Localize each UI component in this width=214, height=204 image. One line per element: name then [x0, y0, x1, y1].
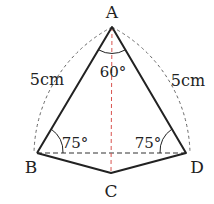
side-label-ab: 5cm: [30, 70, 64, 89]
side-label-ad: 5cm: [171, 71, 205, 90]
diagram-canvas: A B C D 5cm 5cm 60° 75° 75°: [0, 0, 214, 204]
angle-label-d: 75°: [135, 134, 162, 152]
vertex-label-b: B: [25, 157, 38, 177]
angle-label-a: 60°: [100, 63, 127, 81]
axis-ac-dashed: [111, 27, 112, 173]
angle-arc-d: [160, 129, 172, 153]
vertex-label-a: A: [105, 2, 119, 22]
angle-label-b: 75°: [62, 134, 89, 152]
vertex-label-d: D: [190, 157, 204, 177]
vertex-label-c: C: [104, 181, 117, 201]
geometry-figure: A B C D 5cm 5cm 60° 75° 75°: [0, 0, 214, 204]
